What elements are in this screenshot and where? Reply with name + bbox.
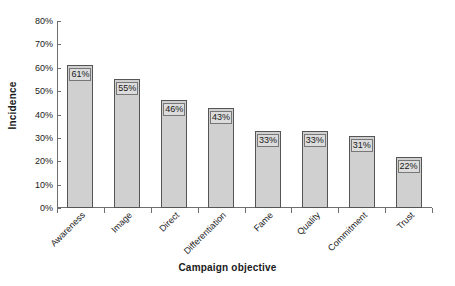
x-category-label-text: Quality: [295, 210, 322, 237]
bar-value-label: 43%: [210, 111, 232, 124]
x-category-label-text: Direct: [158, 210, 182, 234]
bar[interactable]: 55%: [114, 79, 140, 208]
y-tick-label: 50%: [35, 87, 53, 96]
x-axis-title: Campaign objective: [0, 262, 455, 273]
x-tick-mark: [432, 208, 433, 213]
y-tick-label: 30%: [35, 133, 53, 142]
bar[interactable]: 33%: [255, 131, 281, 208]
y-tick-label: 10%: [35, 180, 53, 189]
x-category-label-text: Awareness: [49, 210, 87, 248]
bar-slot: 33%: [291, 21, 338, 208]
x-category-label-text: Trust: [394, 210, 415, 231]
x-axis-category-labels: AwarenessImageDirectDifferentiationFameQ…: [57, 210, 432, 270]
bar[interactable]: 31%: [349, 136, 375, 208]
y-axis-title-label: Incidence: [8, 81, 19, 129]
bar-value-label: 61%: [69, 68, 91, 81]
y-tick-label: 80%: [35, 17, 53, 26]
y-tick-label: 40%: [35, 110, 53, 119]
bar-value-label: 33%: [304, 134, 326, 147]
bar-slot: 43%: [198, 21, 245, 208]
bar-value-label: 33%: [257, 134, 279, 147]
y-tick-label: 20%: [35, 157, 53, 166]
bar-value-label: 22%: [398, 160, 420, 173]
bar[interactable]: 33%: [302, 131, 328, 208]
bar-slot: 31%: [338, 21, 385, 208]
bar-value-label: 55%: [116, 82, 138, 95]
y-tick-label: 0%: [40, 204, 53, 213]
bar-value-label: 46%: [163, 103, 185, 116]
x-category-label-text: Fame: [252, 210, 275, 233]
bar-chart: Incidence 0%10%20%30%40%50%60%70%80% 61%…: [0, 0, 455, 286]
x-category-label-text: Differentiation: [182, 210, 228, 256]
x-category-label-text: Commitment: [326, 210, 369, 253]
bar-slot: 61%: [57, 21, 104, 208]
bar[interactable]: 43%: [208, 108, 234, 209]
bar[interactable]: 46%: [161, 100, 187, 208]
y-tick-label: 60%: [35, 63, 53, 72]
bar-slot: 46%: [151, 21, 198, 208]
x-category-label-text: Image: [110, 210, 135, 235]
bar[interactable]: 61%: [67, 65, 93, 208]
y-axis-ticks: 0%10%20%30%40%50%60%70%80%: [24, 0, 57, 215]
y-axis-title: Incidence: [2, 0, 24, 210]
bar-value-label: 31%: [351, 139, 373, 152]
y-tick-label: 70%: [35, 40, 53, 49]
